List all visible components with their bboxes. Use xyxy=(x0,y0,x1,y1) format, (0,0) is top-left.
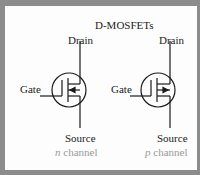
p-gate-label: Gate xyxy=(111,84,132,95)
p-source-label: Source xyxy=(157,133,188,144)
n-channel-caption: n channel xyxy=(55,147,97,158)
p-channel-caption: p channel xyxy=(145,147,187,158)
p-drain-label: Drain xyxy=(159,35,184,46)
n-drain-label: Drain xyxy=(68,35,93,46)
n-channel-dmosfet-icon xyxy=(40,41,86,128)
p-channel-dmosfet-icon xyxy=(130,41,175,128)
n-gate-label: Gate xyxy=(20,84,41,95)
n-source-label: Source xyxy=(65,133,96,144)
